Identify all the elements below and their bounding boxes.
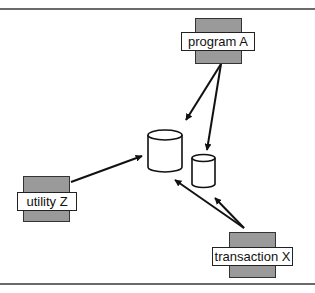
program-a-label: program A [181,32,255,51]
edge-utility-z-to-db-large [71,156,142,182]
database-large-icon [148,130,182,172]
database-small-icon [192,155,215,188]
transaction-x-label: transaction X [212,247,293,266]
edge-transaction-x-to-db-small [215,198,244,228]
utility-z-label: utility Z [17,192,77,211]
